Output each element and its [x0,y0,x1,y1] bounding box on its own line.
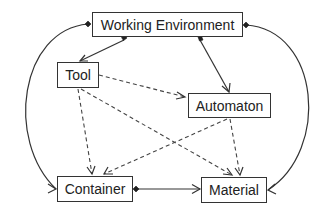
node-label: Working Environment [101,18,235,32]
node-working-environment: Working Environment [92,12,243,37]
node-automaton: Automaton [188,93,271,118]
edge-working-environment-to-tool [80,36,127,62]
edge-tool-to-automaton [99,75,185,99]
diamond-icon [243,22,249,28]
node-tool: Tool [57,62,99,88]
edge-tool-to-container [78,89,95,174]
node-label: Tool [65,68,91,82]
node-label: Material [209,183,259,197]
node-label: Container [65,182,126,196]
relationship-diagram: Working Environment Tool Automaton Conta… [0,0,330,212]
edge-automaton-to-material [230,119,243,175]
edge-container-to-material [133,185,200,194]
edge-working-environment-to-automaton [198,36,230,92]
edge-automaton-to-container [104,119,227,174]
node-label: Automaton [196,99,264,113]
diamond-icon [85,21,91,27]
node-container: Container [57,176,133,202]
node-material: Material [201,177,267,203]
arrow-head-icon [223,168,232,175]
edge-working-environment-to-container [26,21,91,193]
diamond-icon [133,186,139,192]
